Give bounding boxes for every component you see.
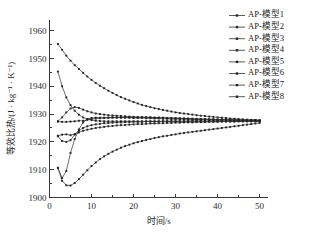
legend-item[interactable]: AP-模型8 xyxy=(229,91,284,101)
series-marker xyxy=(78,107,80,109)
series-marker xyxy=(112,151,114,153)
series-marker xyxy=(229,119,231,121)
series-marker xyxy=(133,121,135,123)
series-marker xyxy=(107,117,109,119)
series-marker xyxy=(166,110,168,112)
x-axis-ticks: 01020304050 xyxy=(47,194,264,211)
legend-item-label: AP-模型4 xyxy=(248,44,285,54)
series-marker xyxy=(133,123,135,125)
series-marker xyxy=(70,139,72,141)
series-marker xyxy=(116,121,118,123)
legend-item-label: AP-模型7 xyxy=(248,79,285,89)
series-marker xyxy=(57,121,59,123)
legend-item[interactable]: AP-模型3 xyxy=(229,33,284,43)
series-marker xyxy=(95,127,97,129)
series-marker xyxy=(208,121,210,123)
series-marker xyxy=(120,121,122,123)
series-marker xyxy=(65,141,67,143)
series-marker xyxy=(191,114,193,116)
series-marker xyxy=(162,122,164,124)
legend-item[interactable]: AP-模型6 xyxy=(229,67,285,77)
series-marker xyxy=(246,119,248,121)
series-marker xyxy=(120,147,122,149)
series-marker xyxy=(233,119,235,121)
series-marker xyxy=(91,128,93,130)
legend-item[interactable]: AP-模型5 xyxy=(229,56,284,66)
series-marker xyxy=(86,129,88,131)
series-marker xyxy=(74,138,76,140)
series-marker xyxy=(208,118,210,120)
series-marker xyxy=(78,178,80,180)
series-marker xyxy=(70,152,72,154)
series-marker xyxy=(166,120,168,122)
series-marker xyxy=(204,115,206,117)
series-marker xyxy=(217,128,219,130)
series-marker xyxy=(259,120,261,122)
series-marker xyxy=(221,121,223,123)
series-marker xyxy=(99,120,101,122)
series-marker xyxy=(204,118,206,120)
series-marker xyxy=(196,121,198,123)
series-marker xyxy=(179,117,181,119)
legend-item[interactable]: AP-模型7 xyxy=(229,79,285,89)
series-marker xyxy=(217,121,219,123)
series-marker xyxy=(141,121,143,123)
series-marker xyxy=(154,107,156,109)
series-marker xyxy=(187,131,189,133)
y-axis-title: 等效比热/(J · kg⁻¹ · K⁻¹) xyxy=(5,62,16,155)
series-marker xyxy=(200,130,202,132)
series-marker xyxy=(233,125,235,127)
series-marker xyxy=(183,118,185,120)
series-marker xyxy=(78,68,80,70)
series-marker xyxy=(196,118,198,120)
series-marker xyxy=(65,96,67,98)
series-marker xyxy=(120,96,122,98)
series-marker xyxy=(238,125,240,127)
series-marker xyxy=(200,118,202,120)
series-marker xyxy=(124,98,126,100)
series-marker xyxy=(242,119,244,121)
series-marker xyxy=(82,174,84,176)
series-marker xyxy=(61,49,63,51)
series-marker xyxy=(120,116,122,118)
series-marker xyxy=(250,119,252,121)
series-marker xyxy=(187,121,189,123)
figure-container: 1900191019201930194019501960 01020304050… xyxy=(0,0,311,237)
series-line xyxy=(58,123,260,186)
series-marker xyxy=(91,124,93,126)
series-marker xyxy=(246,124,248,126)
legend-item[interactable]: AP-模型1 xyxy=(229,9,284,19)
series-marker xyxy=(57,135,59,137)
series-marker xyxy=(57,43,59,45)
series-marker xyxy=(99,123,101,125)
series-marker xyxy=(65,55,67,57)
series-marker xyxy=(61,85,63,87)
legend-item[interactable]: AP-模型2 xyxy=(229,21,284,31)
series-marker xyxy=(170,117,172,119)
series-marker xyxy=(137,116,139,118)
series-marker xyxy=(154,117,156,119)
series-marker xyxy=(103,155,105,157)
series-marker xyxy=(212,121,214,123)
series-marker xyxy=(82,121,84,123)
series-marker xyxy=(70,104,72,106)
series-marker xyxy=(191,121,193,123)
x-tick-label: 10 xyxy=(87,201,97,211)
series-marker xyxy=(107,114,109,116)
legend-item[interactable]: AP-模型4 xyxy=(229,44,285,54)
series-marker xyxy=(170,111,172,113)
series-marker xyxy=(154,137,156,139)
series-marker xyxy=(225,126,227,128)
series-marker xyxy=(65,121,67,123)
series-marker xyxy=(82,130,84,132)
y-tick-label: 1900 xyxy=(29,193,48,203)
series-marker xyxy=(200,121,202,123)
series-marker xyxy=(166,122,168,124)
series-marker xyxy=(128,116,130,118)
x-tick-label: 20 xyxy=(129,201,139,211)
series-marker xyxy=(212,128,214,130)
series-marker xyxy=(145,105,147,107)
series-marker xyxy=(128,144,130,146)
series-marker xyxy=(170,122,172,124)
series-marker xyxy=(259,122,261,124)
